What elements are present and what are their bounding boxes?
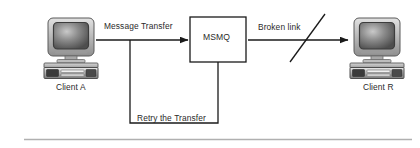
edge-label-message-transfer: Message Transfer: [104, 21, 173, 31]
node-label-msmq: MSMQ: [203, 32, 230, 42]
client-b-computer-icon: [350, 18, 404, 79]
node-label-client-b: Client R: [363, 82, 394, 92]
node-label-client-a: Client A: [56, 82, 86, 92]
edge-label-broken-link: Broken link: [258, 22, 301, 32]
diagram-canvas: Message Transfer Broken link Retry the T…: [0, 0, 420, 148]
diagram-svg: [0, 0, 420, 148]
edge-label-retry-transfer: Retry the Transfer: [137, 113, 206, 123]
client-a-computer-icon: [44, 18, 98, 79]
